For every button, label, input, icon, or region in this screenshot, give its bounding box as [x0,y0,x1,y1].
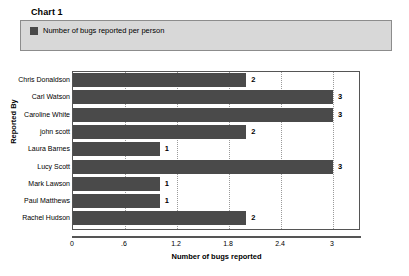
bar[interactable] [73,108,333,122]
bar-value-label: 3 [338,162,342,172]
legend-item-label: Number of bugs reported per person [43,26,164,35]
bar-value-label: 3 [338,110,342,120]
bar-value-label: 1 [165,179,169,189]
bar-value-label: 2 [251,127,255,137]
bar[interactable] [73,142,160,156]
legend-color-swatch-icon [30,27,38,35]
bar[interactable] [73,211,246,225]
x-axis-tick-label: 0 [70,239,74,248]
y-axis-category-label: Carl Watson [0,92,70,101]
bar-row[interactable]: 2 [73,211,359,225]
bar-row[interactable]: 1 [73,177,359,191]
x-axis-line [72,236,361,238]
bar-row[interactable]: 2 [73,125,359,139]
y-axis-category-labels: Chris DonaldsonCarl WatsonCaroline White… [0,71,70,230]
bar-value-label: 2 [251,213,255,223]
bar-row[interactable]: 1 [73,194,359,208]
bar[interactable] [73,73,246,87]
bar-value-label: 1 [165,196,169,206]
bar[interactable] [73,194,160,208]
y-axis-category-label: Lucy Scott [0,162,70,171]
bar-row[interactable]: 3 [73,108,359,122]
plot-area: 233213112 [72,71,360,230]
bar-row[interactable]: 3 [73,160,359,174]
bar[interactable] [73,125,246,139]
bar-row[interactable]: 1 [73,142,359,156]
bar-row[interactable]: 2 [73,73,359,87]
y-axis-category-label: Rachel Hudson [0,213,70,222]
bar-value-label: 3 [338,92,342,102]
x-axis-tick-label: 1.8 [223,239,233,248]
x-axis-tick-labels: 0.61.21.82.43 [72,239,361,251]
bar[interactable] [73,90,333,104]
y-axis-category-label: Mark Lawson [0,179,70,188]
y-axis-category-label: Caroline White [0,110,70,119]
y-axis-category-label: Laura Barnes [0,144,70,153]
x-axis-tick-label: 3 [330,239,334,248]
bar-row[interactable]: 3 [73,90,359,104]
y-axis-category-label: john scott [0,127,70,136]
chart-page: Chart 1 Number of bugs reported per pers… [0,0,409,276]
x-axis-tick-label: 2.4 [275,239,285,248]
y-axis-category-label: Chris Donaldson [0,75,70,84]
legend-item: Number of bugs reported per person [30,26,164,35]
bar-value-label: 1 [165,144,169,154]
y-axis-category-label: Paul Matthews [0,196,70,205]
x-axis-tick-label: 1.2 [171,239,181,248]
bar-value-label: 2 [251,75,255,85]
page-title: Chart 1 [31,7,63,17]
x-axis-title: Number of bugs reported [72,252,361,261]
x-axis-tick-label: .6 [121,239,127,248]
chart-legend-panel: Number of bugs reported per person [20,20,392,51]
bar[interactable] [73,177,160,191]
bar-series: 233213112 [73,72,359,229]
bar[interactable] [73,160,333,174]
